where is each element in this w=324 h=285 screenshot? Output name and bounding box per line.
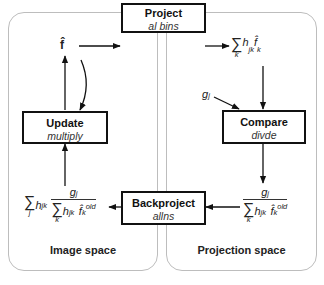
project-box: Project al bins [121,3,206,33]
backproject-box: Backproject allns [121,191,206,225]
backprojected-formula: ∑ j hjk gj ∑ k hjk f̂kold [24,186,96,224]
backproject-subtitle: allns [123,210,204,222]
arrow-gj-to-compare [214,97,239,109]
arrow-f-to-update-curve [80,60,86,110]
backproject-title: Backproject [123,197,204,210]
update-title: Update [24,117,106,130]
update-subtitle: multiply [24,130,106,142]
update-box: Update multiply [22,111,108,144]
compare-box: Compare divde [222,110,306,144]
gj-input: gj [202,84,210,102]
project-subtitle: al bins [123,20,204,32]
project-title: Project [123,7,204,20]
ratio-formula: gj ∑ k hjk f̂kold [243,186,287,224]
f-hat-node: f̂ [60,38,64,52]
compare-subtitle: divde [224,129,304,141]
forward-projection-formula: ∑ k hjkf̂k [231,36,261,59]
compare-title: Compare [224,116,304,129]
